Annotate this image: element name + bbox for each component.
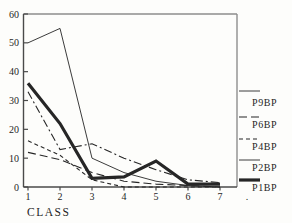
scanned-line-chart: 01020304050601234567.CLASSP9BPP6BPP4BPP2…	[0, 0, 292, 223]
x-tick-label: 6	[186, 191, 191, 202]
x-tick-label: 2	[58, 191, 63, 202]
y-tick-label: 10	[9, 153, 19, 164]
legend-label-P2BP: P2BP	[252, 162, 277, 173]
legend-label-P9BP: P9BP	[252, 97, 277, 108]
x-tick-label: 1	[26, 191, 31, 202]
x-axis-title: CLASS	[27, 206, 70, 218]
x-tick-label: 7	[218, 191, 223, 202]
y-tick-label: 0	[14, 182, 19, 193]
series-line-P6BP	[28, 92, 220, 183]
chart-canvas: 01020304050601234567.CLASSP9BPP6BPP4BPP2…	[0, 0, 292, 223]
legend-label-P6BP: P6BP	[252, 119, 277, 130]
x-tick-label: 3	[90, 191, 95, 202]
x-tick-label: 5	[154, 191, 159, 202]
legend-label-P4BP: P4BP	[252, 141, 277, 152]
x-tick-label: 4	[122, 191, 127, 202]
y-tick-label: 60	[9, 9, 19, 20]
series-line-P1BP	[28, 83, 220, 184]
legend-label-P1BP: P1BP	[252, 182, 277, 193]
y-tick-label: 40	[9, 66, 19, 77]
series-line-P9BP	[28, 28, 220, 187]
y-tick-label: 30	[9, 95, 19, 106]
x-tick-label-extra: .	[246, 191, 249, 202]
y-tick-label: 50	[9, 37, 19, 48]
y-tick-label: 20	[9, 124, 19, 135]
